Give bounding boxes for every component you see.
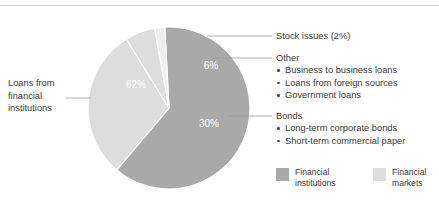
list-item: Business to business loans <box>276 64 398 76</box>
legend-item-financial-markets[interactable]: Financial markets <box>373 167 439 188</box>
callout-bonds-heading: Bonds <box>276 110 405 122</box>
legend-label-line-1: Financial <box>295 167 355 178</box>
legend-label-line-2: markets <box>392 178 439 189</box>
callout-other: Other Business to business loans Loans f… <box>276 52 398 102</box>
legend-label-financial-markets: Financial markets <box>392 167 439 188</box>
callout-other-list: Business to business loans Loans from fo… <box>276 64 398 101</box>
callout-line-3: institutions <box>8 102 86 115</box>
list-item: Short-term commercial paper <box>276 135 405 147</box>
legend-item-financial-institutions[interactable]: Financial institutions <box>276 167 355 188</box>
callout-loans-from-financial-institutions: Loans from financial institutions <box>8 77 86 115</box>
list-item: Government loans <box>276 89 398 101</box>
pie-chart-figure: 62% 30% 6% Loans from financial institut… <box>0 0 439 207</box>
list-item: Loans from foreign sources <box>276 77 398 89</box>
callout-stock-issues: Stock issues (2%) <box>276 30 350 42</box>
callout-bonds: Bonds Long-term corporate bonds Short-te… <box>276 110 405 147</box>
slice-label-62: 62% <box>126 79 146 90</box>
callout-bonds-list: Long-term corporate bonds Short-term com… <box>276 122 405 147</box>
legend-swatch-financial-institutions <box>276 168 289 181</box>
callout-line-1: Loans from <box>8 77 86 90</box>
legend-label-line-1: Financial <box>392 167 439 178</box>
legend-label-financial-institutions: Financial institutions <box>295 167 355 188</box>
slice-label-6: 6% <box>204 60 219 71</box>
legend-label-line-2: institutions <box>295 178 355 189</box>
slice-label-30: 30% <box>199 118 219 129</box>
callout-stock-issues-heading: Stock issues (2%) <box>276 30 350 42</box>
list-item: Long-term corporate bonds <box>276 122 405 134</box>
legend-swatch-financial-markets <box>373 168 386 181</box>
callout-other-heading: Other <box>276 52 398 64</box>
callout-line-2: financial <box>8 90 86 103</box>
chart-legend: Financial institutions Financial markets <box>276 167 439 188</box>
